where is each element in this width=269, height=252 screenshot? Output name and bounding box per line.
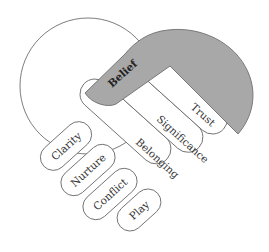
handshake-diagram: Belief Trust Significance Belonging Clar… xyxy=(0,0,269,252)
